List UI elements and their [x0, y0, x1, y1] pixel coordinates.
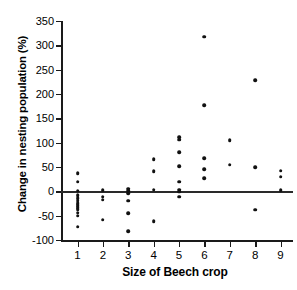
- y-tick-mark: [56, 70, 61, 71]
- x-tick-label: 3: [125, 249, 131, 261]
- y-tick-label: 200: [36, 88, 54, 100]
- data-point: [253, 208, 257, 212]
- x-axis-title: Size of Beech crop: [60, 265, 290, 279]
- x-tick-mark: [179, 242, 180, 247]
- data-point: [177, 164, 181, 168]
- x-tick-mark: [230, 242, 231, 247]
- data-point: [152, 157, 156, 161]
- x-tick-mark: [204, 242, 205, 247]
- data-point: [76, 172, 80, 176]
- y-tick-label: 0: [48, 185, 54, 197]
- data-point: [76, 214, 80, 218]
- y-tick-mark: [56, 45, 61, 46]
- y-tick-mark: [56, 216, 61, 217]
- data-point: [279, 169, 283, 173]
- data-point: [152, 170, 156, 174]
- y-tick-label: 50: [42, 161, 54, 173]
- data-point: [228, 138, 232, 142]
- y-tick-label: 150: [36, 112, 54, 124]
- x-tick-label: 5: [176, 249, 182, 261]
- data-point: [253, 165, 257, 169]
- data-point: [279, 175, 283, 179]
- y-tick-label: 100: [36, 137, 54, 149]
- plot-area: -100-50050100150200250300350 123456789: [61, 21, 292, 240]
- scatter-plot-figure: Change in nesting population (%) -100-50…: [0, 0, 297, 290]
- data-point: [177, 180, 181, 184]
- data-point: [152, 188, 156, 192]
- x-tick-label: 4: [150, 249, 156, 261]
- data-point: [279, 189, 283, 193]
- data-point: [203, 168, 207, 172]
- x-tick-mark: [154, 242, 155, 247]
- y-axis-line: [61, 21, 63, 241]
- data-point: [203, 103, 207, 107]
- data-point: [126, 211, 130, 215]
- data-point: [101, 189, 105, 193]
- x-tick-mark: [255, 242, 256, 247]
- y-tick-label: -50: [38, 210, 54, 222]
- x-tick-label: 6: [201, 249, 207, 261]
- data-point: [101, 198, 105, 202]
- data-point: [177, 138, 181, 142]
- data-point: [203, 156, 207, 160]
- y-tick-mark: [56, 143, 61, 144]
- x-tick-label: 2: [100, 249, 106, 261]
- data-point: [101, 218, 105, 222]
- data-point: [203, 176, 207, 180]
- y-tick-label: -100: [32, 234, 54, 246]
- data-point: [228, 163, 232, 167]
- y-tick-mark: [56, 118, 61, 119]
- y-tick-label: 300: [36, 39, 54, 51]
- y-tick-label: 250: [36, 64, 54, 76]
- x-tick-label: 7: [227, 249, 233, 261]
- x-tick-mark: [78, 242, 79, 247]
- data-point: [177, 195, 181, 199]
- x-tick-mark: [128, 242, 129, 247]
- data-point: [126, 229, 130, 233]
- data-point: [177, 150, 181, 154]
- y-tick-mark: [56, 167, 61, 168]
- x-tick-label: 1: [74, 249, 80, 261]
- x-tick-mark: [281, 242, 282, 247]
- data-point: [152, 219, 156, 223]
- y-tick-mark: [56, 21, 61, 22]
- y-tick-mark: [56, 94, 61, 95]
- data-point: [177, 190, 181, 194]
- y-axis-title: Change in nesting population (%): [16, 14, 28, 234]
- data-point: [76, 225, 80, 229]
- data-point: [126, 199, 130, 203]
- y-tick-label: 350: [36, 15, 54, 27]
- y-tick-mark: [56, 240, 61, 241]
- data-point: [126, 191, 130, 195]
- data-point: [76, 189, 80, 193]
- x-tick-label: 9: [277, 249, 283, 261]
- data-point: [76, 180, 80, 184]
- y-tick-mark: [56, 191, 61, 192]
- x-tick-mark: [103, 242, 104, 247]
- data-point: [203, 35, 207, 39]
- x-tick-label: 8: [252, 249, 258, 261]
- data-point: [253, 79, 257, 83]
- x-axis-line: [61, 240, 293, 242]
